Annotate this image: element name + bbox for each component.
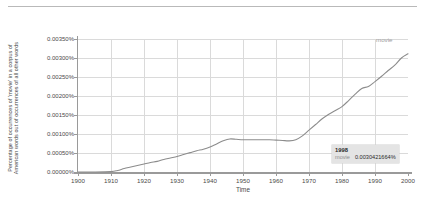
ngram-chart-page: Percentage of occurrences of 'movie' in … [0, 0, 425, 206]
x-axis-tick-mark [111, 173, 112, 176]
y-axis-tick-label: 0.00200% [14, 93, 74, 99]
y-axis-tick-label: 0.00000% [14, 169, 74, 175]
tooltip-value: 0.0030421664% [355, 154, 396, 161]
x-axis-tick-mark [342, 173, 343, 176]
x-axis-tick-mark [309, 173, 310, 176]
x-axis-tick-mark [276, 173, 277, 176]
tooltip-series-name: movie [335, 154, 350, 161]
y-axis-tick-label: 0.00150% [14, 112, 74, 118]
y-axis-tick-label: 0.00050% [14, 150, 74, 156]
series-label-movie: movie [376, 36, 393, 43]
x-axis-tick-mark [408, 173, 409, 176]
y-axis-tick-label: 0.00350% [14, 36, 74, 42]
tooltip-year: 1998 [335, 147, 396, 154]
x-axis-tick-label: 2000 [388, 177, 425, 184]
x-axis-tick-mark [78, 173, 79, 176]
y-axis-tick-label: 0.00250% [14, 74, 74, 80]
y-axis-tick-label: 0.00100% [14, 131, 74, 137]
x-axis-tick-mark [177, 173, 178, 176]
x-axis-tick-mark [243, 173, 244, 176]
data-point-tooltip: 1998 movie 0.0030421664% [332, 145, 399, 163]
y-axis-tick-label: 0.00300% [14, 55, 74, 61]
x-axis-tick-mark [144, 173, 145, 176]
x-axis-tick-mark [375, 173, 376, 176]
y-axis-tick-labels: 0.00000%0.00050%0.00100%0.00150%0.00200%… [12, 39, 74, 172]
x-axis-tick-mark [210, 173, 211, 176]
top-divider [8, 6, 417, 7]
x-axis-title: Time [78, 186, 408, 193]
